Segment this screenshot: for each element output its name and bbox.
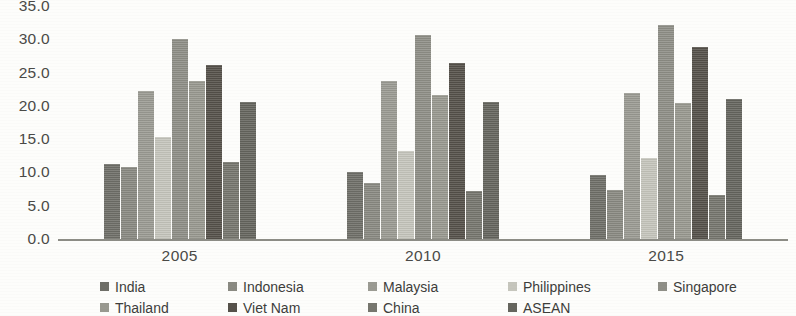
legend-item-viet-nam[interactable]: Viet Nam <box>228 297 368 316</box>
legend-item-malaysia[interactable]: Malaysia <box>368 276 508 297</box>
legend-swatch-icon <box>368 303 377 312</box>
bar-group-2010 <box>301 6 544 239</box>
bar[interactable] <box>364 183 380 239</box>
bar[interactable] <box>398 151 414 239</box>
bar[interactable] <box>483 102 499 239</box>
legend-item-philippines[interactable]: Philippines <box>508 276 658 297</box>
x-axis-labels: 200520102015 <box>58 243 788 269</box>
legend-swatch-icon <box>508 282 517 291</box>
bar[interactable] <box>155 137 171 239</box>
x-axis-line <box>58 239 788 241</box>
bar[interactable] <box>709 195 725 239</box>
bar[interactable] <box>121 167 137 239</box>
legend-label: India <box>115 280 145 294</box>
bar[interactable] <box>590 175 606 239</box>
legend-label: China <box>383 301 420 315</box>
legend-swatch-icon <box>228 303 237 312</box>
bar[interactable] <box>240 102 256 239</box>
legend-item-china[interactable]: China <box>368 297 508 316</box>
y-axis-tick-label: 15.0 <box>0 130 50 148</box>
bar[interactable] <box>189 81 205 239</box>
y-axis-tick-label: 30.0 <box>0 30 50 48</box>
bar-group-2005 <box>58 6 301 239</box>
legend-swatch-icon <box>368 282 377 291</box>
bar[interactable] <box>223 162 239 239</box>
legend-swatch-icon <box>100 303 109 312</box>
legend-swatch-icon <box>658 282 667 291</box>
bar[interactable] <box>641 158 657 239</box>
bar[interactable] <box>449 63 465 239</box>
y-axis-tick-label: 10.0 <box>0 163 50 181</box>
bar[interactable] <box>658 25 674 239</box>
legend-item-singapore[interactable]: Singapore <box>658 276 758 297</box>
bar[interactable] <box>624 93 640 239</box>
legend-swatch-icon <box>228 282 237 291</box>
x-axis-label: 2010 <box>301 243 544 269</box>
bar[interactable] <box>726 99 742 239</box>
legend-label: Malaysia <box>383 280 438 294</box>
bar[interactable] <box>138 91 154 239</box>
bar[interactable] <box>692 47 708 239</box>
x-axis-label: 2015 <box>545 243 788 269</box>
bar[interactable] <box>347 172 363 239</box>
bar[interactable] <box>415 35 431 239</box>
bar[interactable] <box>104 164 120 239</box>
legend-label: Viet Nam <box>243 301 300 315</box>
legend-item-asean[interactable]: ASEAN <box>508 297 658 316</box>
legend-label: ASEAN <box>523 301 570 315</box>
y-axis-tick-label: 25.0 <box>0 64 50 82</box>
legend-label: Singapore <box>673 280 737 294</box>
bar[interactable] <box>206 65 222 239</box>
y-axis-tick-label: 5.0 <box>0 197 50 215</box>
bar[interactable] <box>381 81 397 239</box>
legend-item-india[interactable]: India <box>100 276 228 297</box>
legend-label: Philippines <box>523 280 591 294</box>
legend-item-indonesia[interactable]: Indonesia <box>228 276 368 297</box>
legend-item-thailand[interactable]: Thailand <box>100 297 228 316</box>
bar[interactable] <box>466 191 482 239</box>
bar[interactable] <box>172 39 188 239</box>
y-axis-tick-label: 0.0 <box>0 230 50 248</box>
bar-chart: 35.030.025.020.015.010.05.00.0 200520102… <box>0 0 796 316</box>
legend-swatch-icon <box>508 303 517 312</box>
y-axis: 35.030.025.020.015.010.05.00.0 <box>0 0 56 250</box>
chart-legend: IndiaIndonesiaMalaysiaPhilippinesSingapo… <box>100 276 760 316</box>
bar-group-2015 <box>545 6 788 239</box>
bar[interactable] <box>607 190 623 239</box>
legend-label: Indonesia <box>243 280 304 294</box>
x-axis-label: 2005 <box>58 243 301 269</box>
legend-swatch-icon <box>100 282 109 291</box>
bar[interactable] <box>432 95 448 239</box>
y-axis-tick-label: 35.0 <box>0 0 50 15</box>
legend-label: Thailand <box>115 301 169 315</box>
y-axis-tick-label: 20.0 <box>0 97 50 115</box>
plot-area <box>58 6 788 239</box>
bar[interactable] <box>675 103 691 239</box>
